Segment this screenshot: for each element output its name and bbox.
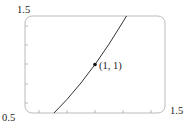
x-tick-label-left: 0.5 xyxy=(2,112,15,123)
point-label: (1, 1) xyxy=(99,60,122,72)
data-point xyxy=(93,63,97,67)
x-tick-label-right: 1.5 xyxy=(170,105,183,116)
chart: (1, 1) 1.5 0.5 1.5 xyxy=(0,0,194,128)
y-tick-label-top: 1.5 xyxy=(17,4,30,15)
